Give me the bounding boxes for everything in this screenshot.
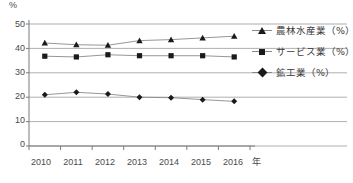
data-point: [168, 95, 174, 101]
data-series-layer: [42, 33, 238, 104]
data-point: [42, 54, 47, 59]
x-axis-tick-2014: 2014: [154, 158, 184, 167]
legend-label-services: サービス業（%）: [276, 46, 353, 57]
data-point: [74, 54, 79, 59]
legend-diamond-icon: [252, 68, 272, 78]
legend-square-icon: [252, 47, 272, 57]
data-point: [168, 53, 173, 58]
x-axis-tick-2013: 2013: [122, 158, 152, 167]
legend-item-agriculture[interactable]: 農林水産業（%）: [252, 20, 347, 41]
data-point: [231, 98, 237, 104]
x-axis-tick-marks: [29, 146, 250, 150]
legend-label-agriculture: 農林水産業（%）: [276, 25, 353, 36]
x-axis-tick-2015: 2015: [186, 158, 216, 167]
legend-item-services[interactable]: サービス業（%）: [252, 41, 347, 62]
legend-label-industry: 鉱工業（%）: [276, 67, 335, 78]
data-point: [105, 52, 110, 57]
legend-triangle-icon: [252, 26, 272, 36]
data-point: [105, 91, 111, 97]
data-point: [232, 54, 237, 59]
x-axis-tick-2012: 2012: [90, 158, 120, 167]
x-axis-tick-2016: 2016: [218, 158, 248, 167]
x-axis-title: 年: [252, 158, 261, 167]
legend-item-industry[interactable]: 鉱工業（%）: [252, 62, 347, 83]
data-point: [200, 53, 205, 58]
x-axis-tick-2011: 2011: [58, 158, 88, 167]
axis-lines: [26, 20, 255, 146]
chart-legend: 農林水産業（%） サービス業（%） 鉱工業（%）: [252, 20, 347, 83]
data-point: [137, 94, 143, 100]
data-point: [73, 89, 79, 95]
data-point: [137, 53, 142, 58]
x-axis-tick-2010: 2010: [26, 158, 56, 167]
